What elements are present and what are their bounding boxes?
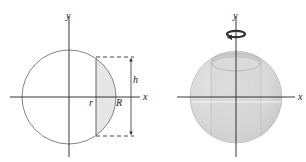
x-axis-label: x	[142, 91, 148, 102]
arrow-down-icon	[129, 132, 132, 136]
y-axis-label: y	[65, 10, 71, 21]
figure-canvas: y x r R h y x	[0, 0, 306, 162]
outer-radius-label: R	[115, 97, 122, 108]
left-cross-section-diagram: y x r R h	[10, 10, 156, 160]
right-solid-of-revolution-diagram: y x	[177, 10, 303, 157]
arrow-up-icon	[129, 58, 132, 62]
y-axis-label: y	[232, 10, 238, 21]
x-axis-label: x	[297, 91, 303, 102]
height-label: h	[133, 74, 138, 85]
inner-radius-label: r	[89, 97, 93, 108]
